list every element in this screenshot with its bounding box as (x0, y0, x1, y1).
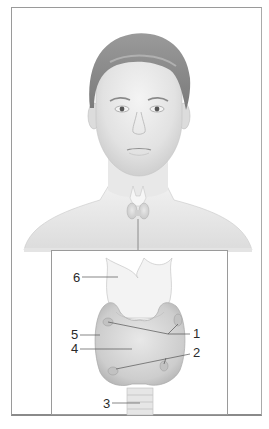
label-4: 4 (71, 342, 78, 355)
parathyroid-inferior-right (160, 361, 168, 371)
parathyroid-inferior-left (108, 367, 118, 375)
label-5: 5 (71, 328, 78, 341)
thyroid-detail (0, 0, 269, 429)
trachea (127, 388, 153, 415)
label-1: 1 (193, 327, 200, 340)
label-2: 2 (193, 346, 200, 359)
label-3: 3 (103, 397, 110, 410)
label-6: 6 (73, 271, 80, 284)
